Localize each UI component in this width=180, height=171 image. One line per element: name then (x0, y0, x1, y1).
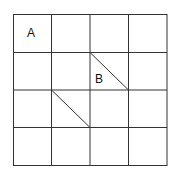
label-a: A (27, 27, 35, 39)
diagonal-lower (52, 90, 91, 128)
grid-lines (14, 15, 168, 166)
label-b: B (95, 73, 103, 85)
